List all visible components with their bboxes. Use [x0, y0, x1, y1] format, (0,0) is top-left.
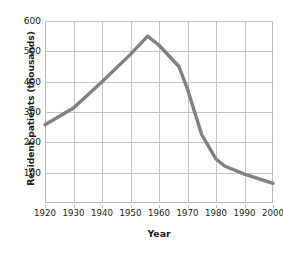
y-tick-label: 100: [7, 168, 41, 178]
y-tick-label: 500: [7, 46, 41, 56]
x-axis-tick-labels: 192019301940195019601970198019902000: [45, 205, 273, 221]
x-tick-label: 2000: [253, 208, 283, 218]
line-chart: Resident patients (thousands) 1002003004…: [0, 0, 283, 253]
x-axis-title: Year: [45, 228, 273, 239]
plot-area: [45, 21, 273, 203]
y-tick-label: 200: [7, 137, 41, 147]
y-tick-label: 400: [7, 77, 41, 87]
y-tick-label: 600: [7, 16, 41, 26]
y-tick-label: 300: [7, 107, 41, 117]
data-series-line: [45, 21, 273, 203]
y-axis-tick-labels: 100200300400500600: [4, 21, 41, 203]
